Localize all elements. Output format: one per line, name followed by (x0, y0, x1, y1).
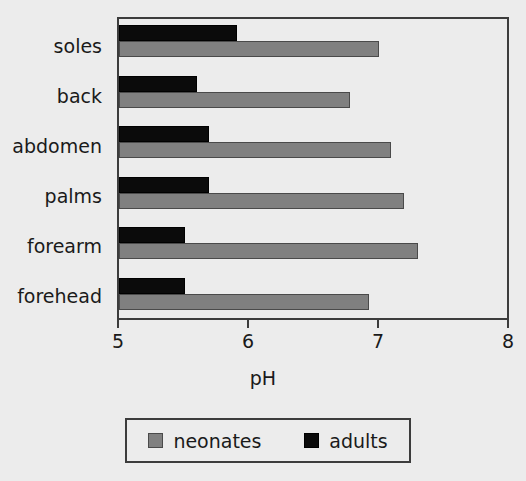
x-tick-5 (117, 318, 119, 328)
x-tick-label-6: 6 (242, 330, 254, 352)
bar-adults-forearm (119, 227, 185, 243)
x-axis-title: pH (0, 367, 526, 389)
category-label-palms: palms (0, 187, 102, 206)
category-label-forearm: forearm (0, 237, 102, 256)
category-label-abdomen: abdomen (0, 137, 102, 156)
x-tick-6 (247, 318, 249, 328)
chart-legend: neonates adults (125, 418, 411, 463)
x-tick-label-5: 5 (112, 330, 124, 352)
black-square-swatch-icon (304, 433, 319, 448)
bar-adults-forehead (119, 278, 185, 294)
x-axis-line (117, 318, 509, 320)
x-tick-label-7: 7 (372, 330, 384, 352)
x-tick-7 (377, 318, 379, 328)
bar-neonates-forearm (119, 243, 418, 259)
x-tick-8 (507, 318, 509, 328)
bar-adults-soles (119, 25, 237, 41)
bar-neonates-palms (119, 193, 404, 209)
gray-square-swatch-icon (148, 433, 163, 448)
x-tick-label-8: 8 (502, 330, 514, 352)
bars-layer (119, 19, 507, 318)
legend-entry-neonates: neonates (148, 430, 261, 452)
bar-neonates-soles (119, 41, 379, 57)
bar-adults-abdomen (119, 126, 209, 142)
legend-entry-adults: adults (304, 430, 387, 452)
bar-adults-back (119, 76, 197, 92)
ph-bar-chart: soles back abdomen palms forearm forehea… (0, 0, 526, 481)
category-axis-labels: soles back abdomen palms forearm forehea… (0, 17, 110, 320)
bar-adults-palms (119, 177, 209, 193)
category-label-forehead: forehead (0, 287, 102, 306)
bar-neonates-abdomen (119, 142, 391, 158)
bar-neonates-back (119, 92, 350, 108)
plot-area (117, 17, 509, 320)
legend-label-neonates: neonates (173, 430, 261, 452)
category-label-soles: soles (0, 37, 102, 56)
bar-neonates-forehead (119, 294, 369, 310)
category-label-back: back (0, 87, 102, 106)
legend-label-adults: adults (329, 430, 387, 452)
